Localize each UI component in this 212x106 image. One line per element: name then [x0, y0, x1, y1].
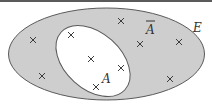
universe-label: E: [192, 21, 202, 35]
complement-label: A: [145, 23, 155, 37]
venn-diagram: E A A: [0, 0, 212, 106]
set-a-label: A: [101, 72, 111, 86]
